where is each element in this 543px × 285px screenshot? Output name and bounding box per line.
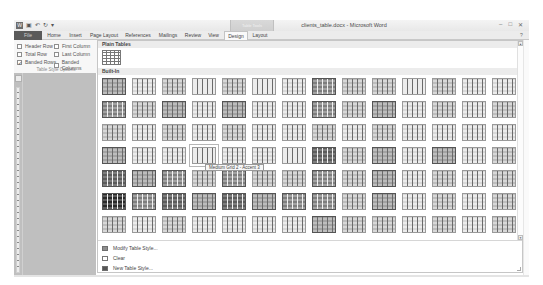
table-style-thumbnail[interactable] [162, 193, 186, 210]
table-style-thumbnail[interactable] [432, 124, 456, 141]
table-style-thumbnail[interactable] [342, 124, 366, 141]
first-column-checkbox[interactable]: First Column [54, 43, 90, 49]
table-style-thumbnail[interactable] [162, 101, 186, 118]
table-style-thumbnail[interactable] [492, 216, 516, 233]
table-style-thumbnail[interactable] [462, 216, 486, 233]
table-style-thumbnail[interactable] [132, 101, 156, 118]
table-grid-style[interactable] [102, 50, 121, 65]
resize-grip[interactable] [517, 267, 521, 271]
table-style-thumbnail[interactable] [282, 193, 306, 210]
table-style-thumbnail[interactable] [132, 193, 156, 210]
table-style-thumbnail[interactable] [162, 124, 186, 141]
table-style-thumbnail[interactable] [492, 193, 516, 210]
table-style-thumbnail[interactable] [132, 147, 156, 164]
table-style-thumbnail[interactable] [252, 216, 276, 233]
table-style-thumbnail[interactable] [492, 124, 516, 141]
table-style-thumbnail[interactable] [462, 147, 486, 164]
table-style-thumbnail[interactable] [132, 124, 156, 141]
table-style-thumbnail[interactable] [492, 147, 516, 164]
table-style-thumbnail[interactable] [282, 216, 306, 233]
table-style-thumbnail[interactable] [132, 216, 156, 233]
table-style-thumbnail[interactable] [192, 101, 216, 118]
tab-insert[interactable]: Insert [65, 31, 86, 40]
table-style-thumbnail[interactable] [132, 170, 156, 187]
table-style-thumbnail[interactable] [402, 78, 426, 95]
minimize-icon[interactable]: – [499, 21, 502, 28]
checkbox-box[interactable] [54, 63, 59, 68]
table-style-thumbnail[interactable] [402, 216, 426, 233]
table-style-thumbnail[interactable] [222, 124, 246, 141]
checkbox-box[interactable] [17, 52, 22, 57]
tab-page-layout[interactable]: Page Layout [87, 31, 121, 40]
table-style-thumbnail[interactable] [312, 101, 336, 118]
table-style-thumbnail[interactable] [342, 170, 366, 187]
new-table-style-menu-item[interactable]: New Table Style... [102, 265, 153, 271]
table-style-thumbnail[interactable] [342, 147, 366, 164]
table-style-thumbnail[interactable] [282, 101, 306, 118]
table-style-thumbnail[interactable] [312, 147, 336, 164]
table-style-thumbnail[interactable] [192, 193, 216, 210]
table-style-thumbnail[interactable] [342, 101, 366, 118]
table-style-thumbnail[interactable] [402, 170, 426, 187]
table-style-thumbnail[interactable] [312, 216, 336, 233]
ruler-toggle-button[interactable] [15, 75, 22, 82]
table-style-thumbnail[interactable] [372, 170, 396, 187]
table-style-thumbnail[interactable] [432, 101, 456, 118]
word-logo-icon[interactable]: W [16, 22, 23, 29]
checkbox-box[interactable]: ✓ [17, 60, 22, 65]
table-style-thumbnail[interactable] [192, 170, 216, 187]
table-style-thumbnail[interactable] [252, 124, 276, 141]
table-style-thumbnail[interactable] [312, 193, 336, 210]
tab-file[interactable]: File [14, 31, 42, 40]
tab-layout[interactable]: Layout [250, 31, 270, 40]
tab-references[interactable]: References [122, 31, 154, 40]
tab-mailings[interactable]: Mailings [155, 31, 181, 40]
table-style-thumbnail[interactable] [222, 170, 246, 187]
tab-home[interactable]: Home [44, 31, 64, 40]
table-style-thumbnail[interactable] [192, 78, 216, 95]
table-style-thumbnail[interactable] [192, 147, 216, 164]
table-style-thumbnail[interactable] [252, 78, 276, 95]
table-style-thumbnail[interactable] [222, 147, 246, 164]
table-style-thumbnail[interactable] [372, 216, 396, 233]
table-style-thumbnail[interactable] [282, 124, 306, 141]
table-style-thumbnail[interactable] [462, 193, 486, 210]
table-style-thumbnail[interactable] [252, 170, 276, 187]
table-style-thumbnail[interactable] [162, 147, 186, 164]
banded-columns-checkbox[interactable]: Banded Columns [54, 59, 97, 71]
checkbox-box[interactable] [54, 52, 59, 57]
table-style-thumbnail[interactable] [102, 78, 126, 95]
checkbox-box[interactable] [54, 44, 59, 49]
table-style-thumbnail[interactable] [432, 193, 456, 210]
table-style-thumbnail[interactable] [252, 147, 276, 164]
table-style-thumbnail[interactable] [192, 124, 216, 141]
save-icon[interactable]: ▣ [26, 22, 32, 29]
table-style-thumbnail[interactable] [372, 147, 396, 164]
table-style-thumbnail[interactable] [222, 101, 246, 118]
table-style-thumbnail[interactable] [102, 216, 126, 233]
customize-qat-icon[interactable]: ▾ [51, 22, 54, 29]
table-style-thumbnail[interactable] [102, 124, 126, 141]
table-style-thumbnail[interactable] [162, 170, 186, 187]
tab-review[interactable]: Review [182, 31, 204, 40]
last-column-checkbox[interactable]: Last Column [54, 51, 90, 57]
table-style-thumbnail[interactable] [462, 170, 486, 187]
table-style-thumbnail[interactable] [252, 101, 276, 118]
total-row-checkbox[interactable]: Total Row [17, 51, 47, 57]
table-style-thumbnail[interactable] [372, 101, 396, 118]
table-style-thumbnail[interactable] [252, 193, 276, 210]
table-style-thumbnail[interactable] [222, 216, 246, 233]
table-style-thumbnail[interactable] [432, 216, 456, 233]
table-style-thumbnail[interactable] [402, 101, 426, 118]
table-style-thumbnail[interactable] [342, 216, 366, 233]
table-style-thumbnail[interactable] [432, 147, 456, 164]
clear-menu-item[interactable]: Clear [102, 255, 125, 261]
table-style-thumbnail[interactable] [102, 147, 126, 164]
table-style-thumbnail[interactable] [372, 78, 396, 95]
table-style-thumbnail[interactable] [162, 78, 186, 95]
table-style-thumbnail[interactable] [312, 124, 336, 141]
table-style-thumbnail[interactable] [492, 78, 516, 95]
table-style-thumbnail[interactable] [102, 193, 126, 210]
table-style-thumbnail[interactable] [312, 78, 336, 95]
table-style-thumbnail[interactable] [402, 147, 426, 164]
